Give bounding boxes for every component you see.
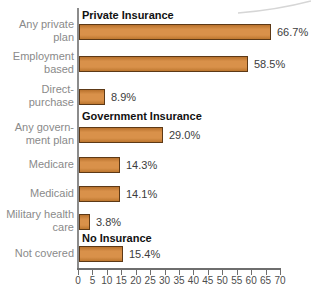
value-label-medicare: 14.3% bbox=[126, 157, 157, 173]
x-axis-tick-label: 50 bbox=[217, 275, 228, 286]
value-label-not-covered: 15.4% bbox=[129, 246, 160, 262]
x-axis-tick-label: 35 bbox=[173, 275, 184, 286]
x-axis-tick-label: 30 bbox=[159, 275, 170, 286]
x-axis-tick-label: 0 bbox=[75, 275, 81, 286]
x-axis-tick-label: 65 bbox=[260, 275, 271, 286]
x-axis-tick-label: 60 bbox=[246, 275, 257, 286]
bar-employment-based bbox=[79, 56, 248, 72]
category-label-medicaid: Medicaid bbox=[0, 187, 74, 200]
x-axis-tick-label: 25 bbox=[145, 275, 156, 286]
bar-medicare bbox=[79, 157, 120, 173]
bar-not-covered bbox=[79, 246, 123, 262]
bar-direct-purchase bbox=[79, 89, 105, 105]
category-label-any-government-plan: Any govern-ment plan bbox=[0, 121, 74, 147]
x-axis-tick-label: 10 bbox=[101, 275, 112, 286]
x-axis-tick-label: 40 bbox=[188, 275, 199, 286]
value-label-direct-purchase: 8.9% bbox=[111, 89, 136, 105]
x-axis-tick-label: 5 bbox=[90, 275, 96, 286]
section-header-private-insurance: Private Insurance bbox=[82, 9, 174, 21]
category-label-any-private-plan: Any privateplan bbox=[0, 18, 74, 44]
category-label-medicare: Medicare bbox=[0, 158, 74, 171]
page-curl-decoration bbox=[236, 0, 311, 16]
value-label-employment-based: 58.5% bbox=[254, 56, 285, 72]
value-label-any-government-plan: 29.0% bbox=[169, 127, 200, 143]
bar-any-government-plan bbox=[79, 127, 163, 143]
x-axis-tick-label: 20 bbox=[130, 275, 141, 286]
x-axis-tick-label: 15 bbox=[116, 275, 127, 286]
category-label-direct-purchase: Direct-purchase bbox=[0, 83, 74, 109]
x-axis-tick-label: 70 bbox=[274, 275, 285, 286]
x-axis-tick-label: 45 bbox=[202, 275, 213, 286]
category-label-military-health-care: Military healthcare bbox=[0, 208, 74, 234]
value-label-military-health-care: 3.8% bbox=[96, 214, 121, 230]
insurance-coverage-bar-chart: 0510152025303540455055606570Private Insu… bbox=[0, 0, 311, 300]
bar-any-private-plan bbox=[79, 24, 271, 40]
value-label-any-private-plan: 66.7% bbox=[277, 24, 308, 40]
category-label-employment-based: Employmentbased bbox=[0, 50, 74, 76]
category-label-not-covered: Not covered bbox=[0, 247, 74, 260]
bar-military-health-care bbox=[79, 214, 90, 230]
section-header-no-insurance: No Insurance bbox=[82, 232, 152, 244]
value-label-medicaid: 14.1% bbox=[126, 186, 157, 202]
bar-medicaid bbox=[79, 186, 120, 202]
x-axis-tick-label: 55 bbox=[231, 275, 242, 286]
section-header-government-insurance: Government Insurance bbox=[82, 110, 202, 122]
